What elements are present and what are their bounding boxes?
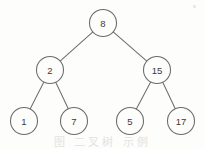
tree-edge-15-17	[163, 82, 176, 109]
tree-edge-2-7	[56, 82, 69, 109]
tree-nodes: 821517517	[11, 10, 195, 135]
tree-edge-15-5	[136, 82, 150, 109]
tree-edge-2-1	[30, 82, 44, 109]
tree-node-label-17: 17	[176, 116, 187, 127]
tree-node-label-15: 15	[152, 65, 163, 76]
tree-node-15[interactable]: 15	[144, 57, 171, 84]
tree-node-label-1: 1	[21, 116, 26, 127]
tree-node-label-8: 8	[100, 18, 105, 29]
tree-node-17[interactable]: 17	[168, 108, 195, 135]
tree-node-1[interactable]: 1	[11, 108, 38, 135]
binary-tree-figure: 821517517 图 二叉树 示例	[0, 0, 205, 149]
tree-node-7[interactable]: 7	[61, 108, 88, 135]
tree-node-5[interactable]: 5	[117, 108, 144, 135]
tree-node-label-5: 5	[127, 116, 132, 127]
tree-node-label-7: 7	[71, 116, 76, 127]
tree-node-8[interactable]: 8	[90, 10, 117, 37]
tree-node-label-2: 2	[47, 65, 52, 76]
scan-artifact-speck	[193, 5, 196, 8]
figure-caption-text: 图 二叉树 示例	[0, 136, 205, 149]
binary-tree-canvas: 821517517	[0, 0, 205, 149]
figure-caption: 图 二叉树 示例	[0, 136, 205, 149]
tree-node-2[interactable]: 2	[37, 57, 64, 84]
tree-edge-8-15	[113, 32, 147, 61]
tree-edge-8-2	[60, 32, 93, 61]
